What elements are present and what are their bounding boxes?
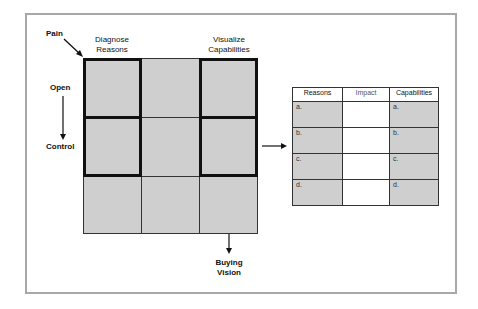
table-row: b. b. [293, 128, 439, 154]
reasons-cell: b. [293, 128, 343, 154]
capabilities-cell: c. [390, 154, 439, 180]
header-impact: Impact [343, 88, 390, 102]
header-capabilities: Capabilities [390, 88, 439, 102]
reasons-cell: d. [293, 180, 343, 206]
impact-cell [343, 180, 390, 206]
capabilities-cell: a. [390, 102, 439, 128]
reasons-cell: a. [293, 102, 343, 128]
buying-vision-label: Buying Vision [209, 258, 249, 278]
impact-cell [343, 154, 390, 180]
impact-cell [343, 128, 390, 154]
reasons-cell: c. [293, 154, 343, 180]
header-reasons: Reasons [293, 88, 343, 102]
impact-cell [343, 102, 390, 128]
reasons-impact-capabilities-table: Reasons Impact Capabilities a. a. b. b. … [292, 87, 439, 206]
table-row: d. d. [293, 180, 439, 206]
table-row: c. c. [293, 154, 439, 180]
buying-text: Buying [209, 258, 249, 268]
capabilities-cell: b. [390, 128, 439, 154]
table-row: a. a. [293, 102, 439, 128]
capabilities-cell: d. [390, 180, 439, 206]
table-header-row: Reasons Impact Capabilities [293, 88, 439, 102]
vision-text: Vision [209, 268, 249, 278]
